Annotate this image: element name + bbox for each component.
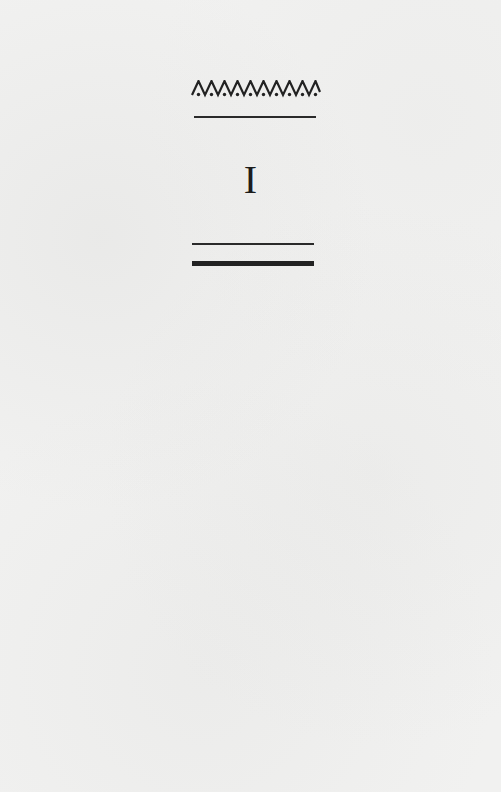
thick-rule-divider xyxy=(192,261,314,266)
thin-rule-divider xyxy=(192,243,314,245)
book-page: I xyxy=(0,0,501,792)
top-rule-divider xyxy=(194,116,316,118)
chapter-number: I xyxy=(0,160,501,200)
zigzag-ornament-icon xyxy=(191,80,321,98)
